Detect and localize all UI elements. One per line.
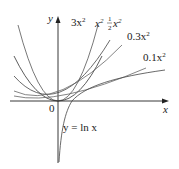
y-axis-arrow-icon: [56, 16, 61, 23]
label-half-x2: 1 2 x2: [107, 15, 122, 32]
svg-text:2: 2: [108, 24, 112, 32]
y-axis-label: y: [47, 12, 53, 24]
label-3x2: 3x2: [71, 16, 86, 28]
label-0.1x2: 0.1x2: [143, 51, 166, 63]
label-0.3x2: 0.3x2: [127, 30, 150, 42]
curve-half-x2: [14, 40, 110, 94]
svg-text:x2: x2: [112, 17, 122, 29]
label-ln-x: y = ln x: [63, 121, 98, 133]
origin-label: 0: [49, 102, 55, 114]
label-x2: x2: [94, 17, 104, 29]
svg-text:1: 1: [108, 15, 112, 23]
x-axis-label: x: [162, 103, 168, 115]
diagram-canvas: y x 0 3x2 x2 1 2 x2 0.3x2 0.1x2 y = ln x: [0, 0, 179, 169]
